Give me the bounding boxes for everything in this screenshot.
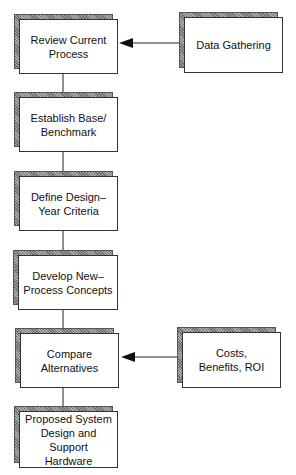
arrowhead-left-icon — [119, 38, 133, 48]
box: Develop New– Process Concepts — [18, 255, 118, 310]
step-label: Define Design– Year Criteria — [31, 190, 106, 218]
input-label: Costs, Benefits, ROI — [199, 346, 264, 374]
box: Review Current Process — [19, 19, 118, 74]
step-review-current-process: Review Current Process — [14, 14, 118, 74]
step-label: Review Current Process — [31, 33, 107, 61]
step-define-design-year-criteria: Define Design– Year Criteria — [14, 171, 118, 231]
input-costs-benefits-roi: Costs, Benefits, ROI — [177, 327, 281, 388]
box: Compare Alternatives — [20, 333, 119, 388]
box: Costs, Benefits, ROI — [182, 332, 281, 388]
box: Establish Base/ Benchmark — [19, 97, 118, 152]
box: Data Gathering — [184, 17, 283, 73]
step-develop-new-process-concepts: Develop New– Process Concepts — [13, 250, 118, 310]
box: Proposed System Design and Support Hardw… — [19, 411, 118, 468]
step-establish-base-benchmark: Establish Base/ Benchmark — [14, 92, 118, 152]
step-label: Establish Base/ Benchmark — [31, 111, 107, 139]
step-label: Develop New– Process Concepts — [23, 269, 112, 297]
step-label: Proposed System Design and Support Hardw… — [24, 412, 113, 468]
step-proposed-system-design: Proposed System Design and Support Hardw… — [14, 406, 118, 468]
arrowhead-left-icon — [121, 352, 135, 362]
box: Define Design– Year Criteria — [19, 176, 118, 231]
input-label: Data Gathering — [196, 38, 271, 52]
input-data-gathering: Data Gathering — [179, 12, 283, 73]
step-compare-alternatives: Compare Alternatives — [15, 328, 119, 388]
step-label: Compare Alternatives — [41, 347, 98, 375]
